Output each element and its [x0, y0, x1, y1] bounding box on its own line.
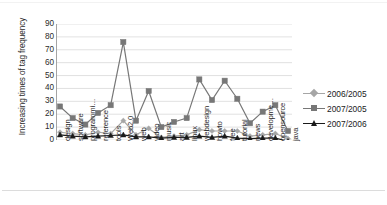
x-tick-label: webdesign	[202, 106, 211, 141]
legend-swatch	[303, 103, 325, 114]
x-tick-label: howto	[215, 121, 224, 141]
y-tick-label: 20	[30, 110, 54, 118]
data-point	[108, 103, 113, 108]
x-tick-label: Web2.0	[126, 116, 135, 141]
x-axis-tick-labels: designsoftwareprogrammi…referencetoolsWe…	[56, 141, 292, 189]
chart-legend: 2006/20052007/20052007/2006	[303, 86, 385, 131]
y-tick-label: 80	[30, 33, 54, 41]
x-tick-label: video	[152, 124, 161, 141]
data-point	[209, 97, 214, 102]
legend-swatch	[303, 88, 325, 99]
x-tick-label: java	[291, 128, 300, 141]
x-tick-label: programmi…	[88, 99, 97, 141]
legend-label: 2007/2006	[327, 119, 367, 129]
x-tick-label: art	[177, 133, 186, 141]
y-tick-label: 10	[30, 123, 54, 131]
data-point	[197, 77, 202, 82]
line-chart: Increasing times of tag frequency 010203…	[0, 0, 387, 205]
data-point	[260, 109, 265, 114]
x-tick-label: developme…	[266, 98, 275, 141]
y-tick-label: 70	[30, 46, 54, 54]
x-tick-label: web	[139, 128, 148, 141]
y-tick-label: 40	[30, 84, 54, 92]
y-tick-label: 90	[30, 20, 54, 28]
legend-item-2007-2005[interactable]: 2007/2005	[303, 101, 385, 116]
x-tick-label: linux	[190, 126, 199, 141]
x-tick-label: opensource	[278, 103, 287, 141]
legend-item-2006-2005[interactable]: 2006/2005	[303, 86, 385, 101]
data-point	[57, 104, 62, 109]
x-tick-label: reference	[101, 110, 110, 141]
legend-label: 2007/2005	[327, 104, 367, 114]
y-axis-tick-labels: 0102030405060708090	[30, 24, 54, 140]
page-border-bottom	[2, 190, 385, 191]
x-tick-label: tutorial	[240, 119, 249, 141]
data-point	[222, 78, 227, 83]
y-tick-label: 60	[30, 59, 54, 67]
legend-item-2007-2006[interactable]: 2007/2006	[303, 116, 385, 131]
x-tick-label: design	[63, 120, 72, 141]
y-tick-label: 50	[30, 72, 54, 80]
legend-swatch	[303, 118, 325, 129]
y-tick-label: 30	[30, 97, 54, 105]
data-point	[184, 115, 189, 120]
data-point	[121, 39, 126, 44]
x-tick-label: free	[228, 129, 237, 142]
y-axis-title: Increasing times of tag frequency	[18, 12, 27, 142]
legend-marker-square-icon	[311, 105, 317, 111]
legend-label: 2006/2005	[327, 89, 367, 99]
data-point	[235, 96, 240, 101]
legend-marker-triangle-icon	[311, 120, 317, 126]
x-tick-label: tools	[114, 126, 123, 141]
page-border-top	[0, 2, 387, 3]
data-point	[146, 88, 151, 93]
legend-marker-diamond-icon	[310, 89, 318, 97]
y-tick-label: 0	[30, 136, 54, 144]
x-tick-label: news	[253, 124, 262, 141]
x-tick-label: music	[164, 122, 173, 141]
x-tick-label: software	[76, 114, 85, 142]
